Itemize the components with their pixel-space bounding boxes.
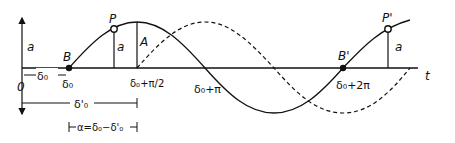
amplitude-label-Pprime: a [395,40,402,54]
tick-delta0-2pi: δ₀+2π [336,79,370,92]
point-A-label: A [139,35,148,49]
point-Pprime-label: P' [382,11,393,25]
tick-delta0-pi2: δ₀+π/2 [130,78,164,89]
point-P-marker [111,26,117,32]
tick-delta0: δ₀ [62,78,74,91]
time-axis-label: t [425,69,431,83]
delta0prime-span-label: δ'₀ [74,98,89,111]
amplitude-label-left: a [27,40,34,54]
delta0-span-label: δ₀ [37,70,49,83]
point-B-marker [66,65,72,71]
point-Pprime-marker [385,26,391,32]
tick-delta0-pi: δ₀+π [194,83,221,96]
point-P-label: P [109,12,117,26]
point-B-label: B [63,50,71,64]
point-Bprime-marker [340,65,346,71]
origin-label: 0 [17,80,25,94]
point-Bprime-label: B' [338,49,350,63]
alpha-equation-label: α=δ₀−δ'₀ [77,122,123,133]
phase-diagram: a B P a A B' P' a t 0 δ₀ δ₀ δ₀+π/2 δ₀+π … [0,0,455,143]
solid-sine-curve [69,20,410,113]
amplitude-label-P: a [117,40,124,54]
